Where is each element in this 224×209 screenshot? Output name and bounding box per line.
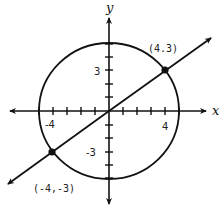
- tick-label-y-neg3: -3: [86, 147, 96, 158]
- tick-label-x-neg4: -4: [45, 119, 55, 130]
- y-axis-label: y: [105, 0, 114, 15]
- point-label-4-3: (4.3): [148, 43, 178, 54]
- point-label-neg4-neg3: (-4,-3): [33, 183, 75, 194]
- point-neg4-neg3: [48, 148, 55, 155]
- tick-label-x-4: 4: [162, 121, 168, 132]
- x-axis-label: x: [212, 103, 220, 118]
- circle-line-diagram: y x 3 -3 -4 4 (4.3) (-4,-3): [0, 0, 224, 209]
- tick-label-y-3: 3: [94, 66, 100, 77]
- point-4-3: [161, 66, 168, 73]
